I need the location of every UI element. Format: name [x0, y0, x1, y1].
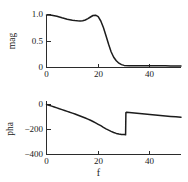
phase-y-ticks: [47, 105, 51, 155]
phase-plot-panel: 0 −200 −400 0 20 40 pha f: [0, 88, 188, 182]
phase-x-ticks: [47, 151, 150, 155]
phase-xtick-40: 40: [139, 156, 160, 166]
phase-curve: [47, 105, 182, 135]
magnitude-plot-panel: 1.0 0.5 0 0 20 40 mag: [0, 0, 188, 88]
magnitude-ytick-0.5: 0.5: [18, 36, 43, 46]
magnitude-axes-spines: [47, 15, 182, 68]
phase-xtick-20: 20: [88, 156, 109, 166]
x-axis-title: f: [88, 167, 109, 178]
bode-plot-figure: 1.0 0.5 0 0 20 40 mag: [0, 0, 188, 182]
phase-xtick-0: 0: [36, 156, 57, 166]
magnitude-xtick-40: 40: [139, 69, 160, 79]
magnitude-xtick-0: 0: [36, 69, 57, 79]
magnitude-xtick-20: 20: [88, 69, 109, 79]
magnitude-y-ticks: [47, 15, 51, 68]
magnitude-ytick-1.0: 1.0: [18, 9, 43, 19]
phase-ytick-0: 0: [14, 99, 43, 109]
phase-y-axis-title: pha: [5, 111, 15, 147]
phase-axes-spines: [47, 101, 182, 155]
magnitude-y-axis-title: mag: [7, 23, 17, 59]
magnitude-curve: [47, 15, 182, 66]
